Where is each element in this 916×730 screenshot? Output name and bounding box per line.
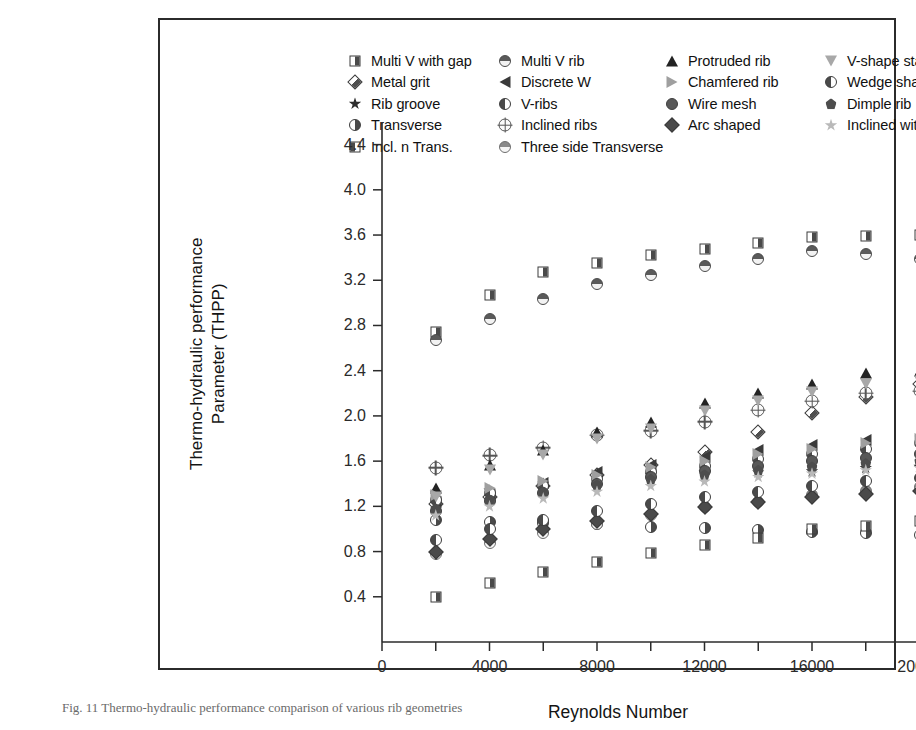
marker-glyph-star-outline	[752, 470, 765, 483]
marker-glyph-tri-down	[699, 406, 711, 417]
plot-area: 0.40.81.21.62.02.42.83.23.64.04.4 040008…	[327, 42, 916, 669]
marker-glyph-circle-topfill	[430, 334, 442, 346]
data-point	[483, 463, 497, 477]
data-point	[536, 513, 550, 527]
marker-glyph-tri-down	[645, 424, 657, 435]
data-point	[805, 522, 819, 536]
x-tick-label: 16000	[790, 658, 835, 676]
data-point	[859, 519, 873, 533]
data-point	[536, 292, 550, 306]
x-tick-label: 12000	[682, 658, 727, 676]
marker-glyph-circle-halfh-l	[537, 514, 549, 526]
data-point	[913, 228, 916, 242]
data-point	[429, 461, 443, 475]
marker-glyph-square-halfv	[699, 539, 710, 550]
marker-glyph-square-halfv	[430, 591, 441, 602]
y-tick-label: 4.0	[327, 181, 366, 199]
marker-glyph-circle-topfill	[484, 313, 496, 325]
y-tick-label: 1.6	[327, 452, 366, 470]
marker-glyph-square-halfv	[807, 232, 818, 243]
data-point	[751, 470, 765, 484]
marker-glyph-square-halfv	[538, 267, 549, 278]
y-tick-label: 2.4	[327, 362, 366, 380]
marker-glyph-circle-halfh-l	[591, 505, 603, 517]
data-point	[751, 425, 765, 439]
data-point	[590, 485, 604, 499]
y-tick-label: 2.0	[327, 407, 366, 425]
marker-glyph-tri-down	[860, 379, 872, 390]
marker-glyph-tri-down	[752, 396, 764, 407]
marker-glyph-square-halfv	[484, 289, 495, 300]
marker-glyph-square-halfv	[645, 250, 656, 261]
data-point	[805, 385, 819, 399]
y-tick-label: 4.4	[327, 136, 366, 154]
data-point	[913, 528, 916, 542]
marker-glyph-square-halfv	[645, 547, 656, 558]
data-point	[429, 508, 443, 522]
marker-glyph-star-outline	[644, 480, 657, 493]
data-point	[644, 546, 658, 560]
marker-glyph-circle-halfh-l	[645, 498, 657, 510]
marker-glyph-star-outline	[859, 464, 872, 477]
marker-glyph-circle-halfh-l	[430, 534, 442, 546]
y-axis-title-line2: Parameter (THPP)	[209, 283, 228, 424]
marker-glyph-circle-halfh-l	[484, 523, 496, 535]
data-point	[590, 432, 604, 446]
marker-glyph-square-halfv	[699, 243, 710, 254]
data-point	[751, 252, 765, 266]
data-point	[805, 467, 819, 481]
marker-glyph-star-outline	[483, 500, 496, 513]
marker-glyph-star-outline	[429, 509, 442, 522]
data-point	[805, 244, 819, 258]
data-point	[590, 555, 604, 569]
data-point	[590, 277, 604, 291]
marker-glyph-square-halfv	[592, 258, 603, 269]
marker-glyph-tri-down	[537, 450, 549, 461]
y-tick-label: 0.4	[327, 588, 366, 606]
marker-glyph-circle-topfill	[860, 248, 872, 260]
x-tick-label: 8000	[579, 658, 615, 676]
marker-glyph-circle-halfh-l	[752, 486, 764, 498]
data-point	[913, 461, 916, 475]
data-point	[644, 497, 658, 511]
data-point	[859, 377, 873, 391]
figure-frame: Multi V with gapMetal gritRib grooveTran…	[158, 18, 896, 670]
data-point	[536, 448, 550, 462]
marker-glyph-star-outline	[591, 485, 604, 498]
marker-glyph-circle-halfh-r	[645, 521, 657, 533]
marker-glyph-star-outline	[698, 475, 711, 488]
data-point	[913, 252, 916, 266]
data-point	[483, 288, 497, 302]
marker-glyph-circle-halfh-l	[699, 491, 711, 503]
data-point	[536, 265, 550, 279]
figure-caption: Fig. 11 Thermo-hydraulic performance com…	[62, 700, 462, 716]
data-point	[536, 491, 550, 505]
data-point	[483, 312, 497, 326]
y-axis-title: Thermo-hydraulic performance Parameter (…	[186, 74, 230, 634]
marker-glyph-square-halfv	[860, 231, 871, 242]
data-point	[913, 374, 916, 388]
data-point	[751, 394, 765, 408]
data-point	[698, 521, 712, 535]
data-point	[698, 242, 712, 256]
marker-glyph-circle-topfill	[537, 293, 549, 305]
y-tick-label: 0.8	[327, 543, 366, 561]
marker-glyph-square-halfv	[592, 556, 603, 567]
data-point	[536, 565, 550, 579]
data-point	[483, 499, 497, 513]
data-point	[859, 247, 873, 261]
data-point	[644, 248, 658, 262]
marker-glyph-circle-plus	[429, 461, 442, 474]
marker-glyph-tri-down	[484, 465, 496, 476]
data-point	[590, 504, 604, 518]
data-point	[483, 576, 497, 590]
data-point	[698, 538, 712, 552]
marker-glyph-tri-down	[806, 387, 818, 398]
marker-glyph-circle-halfh-r	[699, 522, 711, 534]
marker-glyph-square-halfv	[753, 237, 764, 248]
data-point	[698, 490, 712, 504]
data-point	[698, 474, 712, 488]
marker-glyph-square-halfv	[538, 566, 549, 577]
marker-glyph-square-halfv	[753, 533, 764, 544]
marker-glyph-circle-halfh-l	[860, 475, 872, 487]
